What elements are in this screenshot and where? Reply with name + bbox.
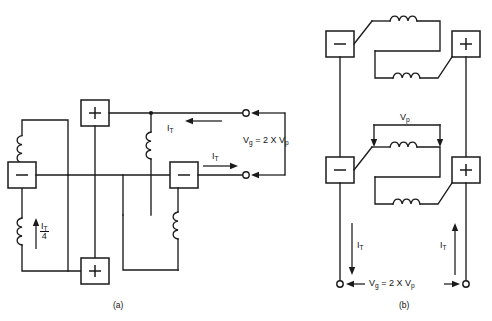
coil-b-upper-top (354, 16, 440, 51)
arrow-vg-left (346, 281, 354, 287)
terminal-a-bottom (243, 172, 249, 178)
arrow-current-a-top (185, 118, 193, 124)
arrow-current-b-right (452, 223, 458, 231)
caption-panel-b: (b) (399, 300, 409, 310)
current-label-b-right: IT (440, 241, 447, 250)
coil-b-lower-top (354, 142, 440, 177)
terminal-b-left (337, 281, 343, 287)
arrow-vp-right (437, 139, 443, 147)
arrow-current-a-right (230, 163, 238, 169)
current-fraction-label-a: IT 4 (40, 222, 49, 242)
arrow-into-terminal-a-top (251, 110, 259, 116)
primary-voltage-label-b: Vp (400, 113, 410, 122)
figure-container: IT IT IT 4 Vg = 2 X Vp (a) Vp IT IT Vg =… (0, 0, 492, 321)
voltage-equation-a: Vg = 2 X Vp (243, 136, 289, 145)
coil-a-center-branch (146, 113, 151, 215)
arrow-vg-right (452, 281, 460, 287)
coil-b-lower-bottom (375, 177, 452, 204)
arrow-current-a-quarter (33, 218, 39, 226)
coil-b-upper-bottom (375, 51, 452, 78)
terminal-b-right (463, 281, 469, 287)
panel-b-circuit (326, 16, 480, 287)
coil-a-lower-right-branch (173, 188, 178, 270)
caption-panel-a: (a) (113, 300, 123, 310)
arrow-into-terminal-a-bottom (251, 172, 259, 178)
arrow-current-b-left (349, 267, 355, 275)
arrow-vp-left (371, 139, 377, 147)
circuit-schematic (0, 0, 492, 321)
current-label-a-right: IT (212, 152, 219, 161)
coil-a-lower-left-branch (17, 183, 81, 271)
current-label-a-top: IT (167, 124, 174, 133)
panel-a-circuit (8, 100, 285, 284)
terminal-a-top (243, 110, 249, 116)
voltage-equation-b: Vg = 2 X Vp (369, 279, 415, 288)
current-label-b-left: IT (357, 241, 364, 250)
